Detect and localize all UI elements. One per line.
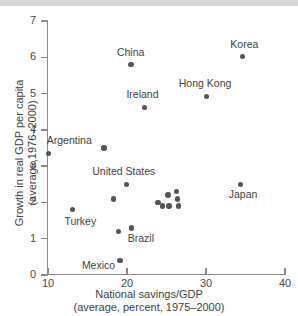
data-point (176, 203, 181, 208)
data-point-label: Brazil (128, 233, 154, 244)
y-tick (41, 129, 48, 130)
data-point (165, 192, 170, 197)
x-tick (284, 268, 285, 275)
data-point (174, 189, 179, 194)
x-axis-label: National savings/GDP (average, percent, … (0, 288, 298, 314)
x-tick (126, 268, 127, 275)
y-tick (41, 20, 48, 21)
data-point-label: United States (92, 166, 155, 177)
data-point (111, 196, 116, 201)
data-point (166, 203, 171, 208)
data-point (117, 258, 122, 263)
y-tick (41, 202, 48, 203)
data-point (101, 145, 106, 150)
data-point-label: Hong Kong (179, 78, 232, 89)
y-tick (41, 57, 48, 58)
data-point-label: Turkey (64, 216, 96, 227)
scatter-chart: 01234567 10203040 ArgentinaTurkeyMexicoU… (0, 0, 298, 316)
data-point (128, 62, 133, 67)
data-point (238, 182, 243, 187)
y-axis-label: Growth in real GDP per capita (average,1… (13, 23, 39, 283)
data-point-label: China (117, 47, 144, 58)
data-point (70, 207, 75, 212)
x-tick (47, 268, 48, 275)
y-tick (41, 238, 48, 239)
data-point (204, 94, 209, 99)
y-tick (41, 93, 48, 94)
data-point-label: Argentina (47, 135, 92, 146)
y-axis-label-line1: Growth in real GDP per capita (13, 80, 25, 227)
data-point (240, 54, 245, 59)
data-point (142, 105, 147, 110)
data-point-label: Korea (230, 39, 258, 50)
data-point-label: Mexico (82, 260, 115, 271)
y-tick (41, 165, 48, 166)
x-axis-label-line2: (average, percent, 1975–2000) (0, 301, 298, 314)
data-point (116, 229, 121, 234)
data-point (46, 151, 51, 156)
data-point (124, 182, 129, 187)
x-axis-line (47, 274, 286, 275)
y-axis-label-line2: (average,1976–2000) (26, 23, 39, 283)
data-point (129, 225, 134, 230)
data-point-label: Japan (229, 189, 258, 200)
x-tick (205, 268, 206, 275)
data-point (175, 196, 180, 201)
data-point-label: Ireland (126, 89, 158, 100)
x-axis-label-line1: National savings/GDP (95, 288, 203, 300)
data-point (160, 203, 165, 208)
